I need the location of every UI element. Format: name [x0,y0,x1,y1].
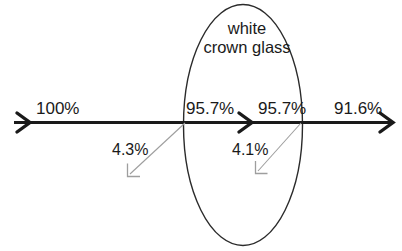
before-second-surface-label: 95.7% [258,100,306,117]
transmitted-beam-label: 91.6% [334,100,382,117]
ray-diagram-graphics [0,0,402,251]
after-first-surface-label: 95.7% [186,100,234,117]
second-surface-reflection-label: 4.1% [232,142,268,158]
incident-beam-label: 100% [36,100,79,117]
material-label-line2: crown glass [203,38,290,57]
first-surface-reflection-label: 4.3% [112,142,148,158]
material-label: white crown glass [203,19,290,57]
diagram-canvas: white crown glass 100% 95.7% 95.7% 91.6%… [0,0,402,251]
material-label-line1: white [203,19,290,38]
